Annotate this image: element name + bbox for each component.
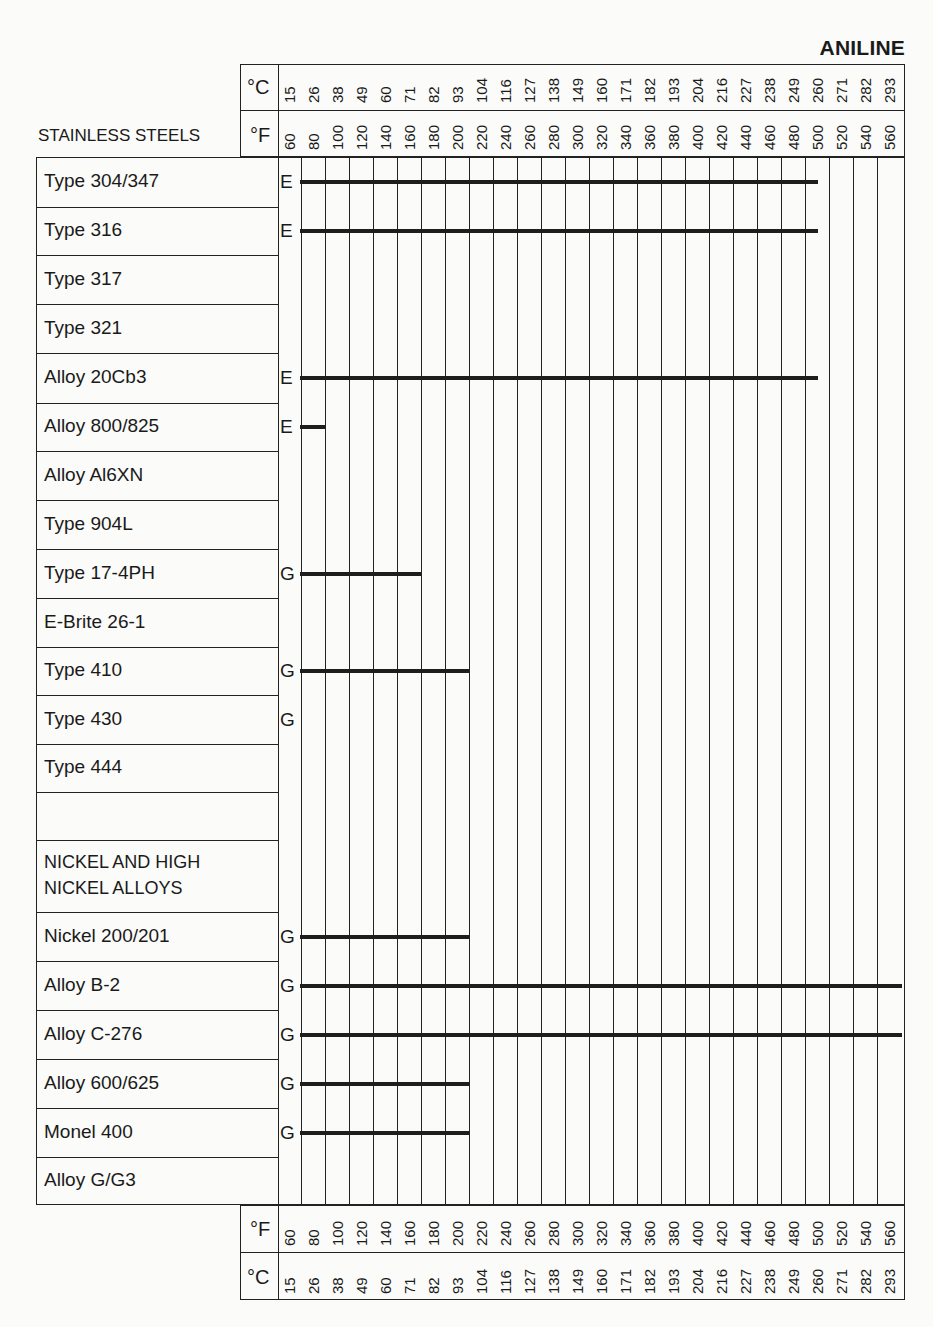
rating-letter: G bbox=[280, 709, 295, 731]
row-divider bbox=[36, 1059, 278, 1060]
header-celsius-tick: 193 bbox=[666, 78, 682, 103]
footer-celsius-tick: 238 bbox=[762, 1269, 778, 1294]
footer-fahrenheit-tick: 200 bbox=[450, 1221, 466, 1246]
row-divider bbox=[36, 744, 278, 745]
material-name: Type 444 bbox=[44, 756, 122, 778]
footer-celsius-tick: 227 bbox=[738, 1269, 754, 1294]
grid-vertical-line bbox=[541, 157, 542, 1205]
header-fahrenheit-tick: 540 bbox=[858, 125, 874, 150]
header-celsius-tick: 26 bbox=[306, 86, 322, 103]
footer-fahrenheit-tick: 220 bbox=[474, 1221, 490, 1246]
grid-vertical-line bbox=[733, 157, 734, 1205]
header-celsius-tick: 260 bbox=[810, 78, 826, 103]
grid-vertical-line bbox=[421, 157, 422, 1205]
rating-range-bar bbox=[300, 229, 818, 233]
rating-letter: E bbox=[280, 367, 293, 389]
header-fahrenheit-tick: 240 bbox=[498, 125, 514, 150]
footer-celsius-tick: 127 bbox=[522, 1269, 538, 1294]
footer-celsius-tick: 204 bbox=[690, 1269, 706, 1294]
material-name: Type 304/347 bbox=[44, 170, 159, 192]
material-name: Alloy G/G3 bbox=[44, 1169, 136, 1191]
material-name: Alloy 600/625 bbox=[44, 1072, 159, 1094]
row-divider bbox=[36, 1010, 278, 1011]
header-celsius-tick: 127 bbox=[522, 78, 538, 103]
rating-letter: G bbox=[280, 926, 295, 948]
header-celsius-tick: 160 bbox=[594, 78, 610, 103]
rating-letter: E bbox=[280, 220, 293, 242]
header-celsius-tick: 204 bbox=[690, 78, 706, 103]
header-fahrenheit-tick: 280 bbox=[546, 125, 562, 150]
rating-letter: G bbox=[280, 1122, 295, 1144]
footer-celsius-tick: 249 bbox=[786, 1269, 802, 1294]
material-name: Type 410 bbox=[44, 659, 122, 681]
rating-letter: G bbox=[280, 1073, 295, 1095]
header-fahrenheit-tick: 100 bbox=[330, 125, 346, 150]
celsius-unit-label: °C bbox=[247, 76, 269, 99]
row-divider bbox=[36, 304, 278, 305]
row-divider bbox=[36, 451, 278, 452]
material-name: Nickel 200/201 bbox=[44, 925, 170, 947]
footer-celsius-tick: 26 bbox=[306, 1277, 322, 1294]
footer-celsius-tick: 271 bbox=[834, 1269, 850, 1294]
grid-vertical-line bbox=[301, 157, 302, 1205]
header-fahrenheit-tick: 320 bbox=[594, 125, 610, 150]
row-divider bbox=[36, 207, 278, 208]
footer-fahrenheit-tick: 160 bbox=[402, 1221, 418, 1246]
header-fahrenheit-tick: 480 bbox=[786, 125, 802, 150]
header-fahrenheit-tick: 460 bbox=[762, 125, 778, 150]
footer-celsius-unit-label: °C bbox=[247, 1266, 269, 1289]
fahrenheit-unit-label: °F bbox=[250, 124, 270, 147]
footer-celsius-tick: 116 bbox=[498, 1270, 514, 1294]
row-divider bbox=[36, 549, 278, 550]
header-fahrenheit-tick: 80 bbox=[306, 133, 322, 150]
row-divider bbox=[36, 1157, 278, 1158]
header-fahrenheit-tick: 200 bbox=[450, 125, 466, 150]
footer-fahrenheit-tick: 180 bbox=[426, 1221, 442, 1246]
header-celsius-tick: 149 bbox=[570, 78, 586, 103]
grid-vertical-line bbox=[613, 157, 614, 1205]
header-celsius-tick: 271 bbox=[834, 78, 850, 103]
section-nickel-line2: NICKEL ALLOYS bbox=[44, 878, 182, 899]
header-fahrenheit-tick: 360 bbox=[642, 125, 658, 150]
grid-vertical-line bbox=[469, 157, 470, 1205]
grid-vertical-line bbox=[517, 157, 518, 1205]
row-divider bbox=[36, 961, 278, 962]
header-fahrenheit-tick: 140 bbox=[378, 125, 394, 150]
material-name: Alloy B-2 bbox=[44, 974, 120, 996]
footer-fahrenheit-tick: 140 bbox=[378, 1221, 394, 1246]
grid-vertical-line bbox=[445, 157, 446, 1205]
material-name: Type 316 bbox=[44, 219, 122, 241]
rating-range-bar bbox=[300, 180, 818, 184]
grid-vertical-line bbox=[565, 157, 566, 1205]
grid-vertical-line bbox=[685, 157, 686, 1205]
footer-fahrenheit-tick: 380 bbox=[666, 1221, 682, 1246]
header-celsius-tick: 249 bbox=[786, 78, 802, 103]
grid-vertical-line bbox=[757, 157, 758, 1205]
grid-vertical-line bbox=[373, 157, 374, 1205]
header-celsius-tick: 216 bbox=[714, 78, 730, 103]
material-name: Alloy Al6XN bbox=[44, 464, 143, 486]
grid-vertical-line bbox=[397, 157, 398, 1205]
footer-celsius-tick: 193 bbox=[666, 1269, 682, 1294]
footer-fahrenheit-unit-label: °F bbox=[250, 1218, 270, 1241]
header-celsius-tick: 82 bbox=[426, 86, 442, 103]
material-name: Type 321 bbox=[44, 317, 122, 339]
header-celsius-tick: 71 bbox=[402, 86, 418, 103]
header-celsius-tick: 182 bbox=[642, 78, 658, 103]
footer-divider bbox=[240, 1252, 905, 1253]
rating-letter: G bbox=[280, 660, 295, 682]
footer-fahrenheit-tick: 100 bbox=[330, 1221, 346, 1246]
footer-unit-divider bbox=[278, 1205, 279, 1300]
footer-fahrenheit-tick: 60 bbox=[282, 1229, 298, 1246]
header-fahrenheit-tick: 260 bbox=[522, 125, 538, 150]
header-divider bbox=[240, 110, 905, 111]
material-name: Alloy C-276 bbox=[44, 1023, 142, 1045]
section-stainless-steels: STAINLESS STEELS bbox=[38, 126, 200, 146]
material-name: Monel 400 bbox=[44, 1121, 133, 1143]
footer-fahrenheit-tick: 480 bbox=[786, 1221, 802, 1246]
row-divider bbox=[36, 792, 278, 793]
row-divider bbox=[36, 695, 278, 696]
footer-fahrenheit-tick: 280 bbox=[546, 1221, 562, 1246]
header-fahrenheit-tick: 380 bbox=[666, 125, 682, 150]
header-fahrenheit-tick: 400 bbox=[690, 125, 706, 150]
